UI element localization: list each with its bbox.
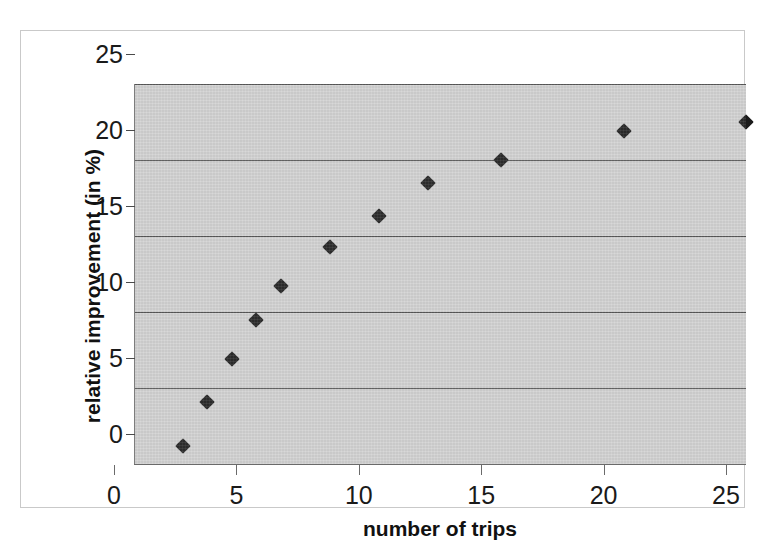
gridline-y-20 xyxy=(134,160,746,161)
x-tick-label-10: 10 xyxy=(345,483,373,508)
data-point xyxy=(420,175,436,191)
x-tick-label-15: 15 xyxy=(467,483,495,508)
data-point xyxy=(200,394,216,410)
data-point xyxy=(738,114,754,130)
x-axis-title: number of trips xyxy=(134,517,746,541)
y-tick-20 xyxy=(126,130,135,131)
figure-frame: 0510152025 0510152025 relative improveme… xyxy=(20,30,745,508)
x-tick-10 xyxy=(359,465,360,475)
plot-top-border xyxy=(134,84,746,85)
x-tick-20 xyxy=(604,465,605,475)
data-point xyxy=(493,152,509,168)
data-point xyxy=(616,123,632,139)
y-axis-title: relative improvement (in %) xyxy=(81,86,105,486)
data-point xyxy=(273,278,289,294)
data-point xyxy=(249,312,265,328)
data-point xyxy=(322,239,338,255)
gridline-y-10 xyxy=(134,312,746,313)
y-tick-label-0: 0 xyxy=(109,422,123,447)
y-tick-15 xyxy=(126,206,135,207)
gridline-y-15 xyxy=(134,236,746,237)
plot-grain-texture xyxy=(134,84,746,464)
x-tick-15 xyxy=(481,465,482,475)
data-point xyxy=(371,208,387,224)
x-tick-label-0: 0 xyxy=(107,483,121,508)
data-point xyxy=(224,351,240,367)
y-tick-0 xyxy=(126,434,135,435)
y-tick-label-5: 5 xyxy=(109,346,123,371)
y-axis-line xyxy=(134,84,135,465)
data-point xyxy=(175,438,191,454)
plot-area xyxy=(134,84,746,464)
x-tick-25 xyxy=(726,465,727,475)
y-tick-25 xyxy=(126,54,135,55)
x-tick-label-5: 5 xyxy=(229,483,243,508)
x-axis-line xyxy=(134,464,746,465)
gridline-y-5 xyxy=(134,388,746,389)
y-tick-5 xyxy=(126,358,135,359)
x-tick-5 xyxy=(236,465,237,475)
y-tick-10 xyxy=(126,282,135,283)
y-tick-label-25: 25 xyxy=(95,42,123,67)
x-tick-label-25: 25 xyxy=(712,483,740,508)
x-tick-label-20: 20 xyxy=(590,483,618,508)
